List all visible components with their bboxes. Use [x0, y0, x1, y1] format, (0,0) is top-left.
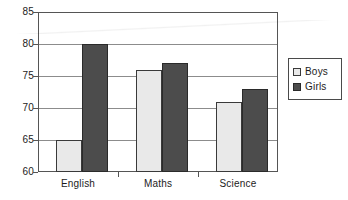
- x-axis-tick-2: [198, 172, 199, 177]
- bar-maths-girls: [162, 63, 188, 172]
- y-axis-label-80: 80: [4, 39, 34, 49]
- bar-english-boys: [56, 140, 82, 172]
- legend-swatch-girls-icon: [293, 83, 301, 91]
- bar-maths-boys: [136, 70, 162, 172]
- chart-legend: Boys Girls: [288, 58, 342, 100]
- y-axis-label-60: 60: [4, 167, 34, 177]
- y-axis-label-85: 85: [4, 7, 34, 17]
- bar-chart: 85 80 75 70 65 60 English Maths Science: [0, 0, 348, 200]
- y-axis-label-70: 70: [4, 103, 34, 113]
- bars-layer: [38, 12, 278, 172]
- y-axis-label-65: 65: [4, 135, 34, 145]
- bar-science-boys: [216, 102, 242, 172]
- x-axis-label-science: Science: [198, 178, 278, 190]
- bar-science-girls: [242, 89, 268, 172]
- y-axis-label-75: 75: [4, 71, 34, 81]
- legend-item-boys: Boys: [293, 64, 336, 79]
- x-axis-tick-1: [118, 172, 119, 177]
- legend-label-girls: Girls: [305, 81, 327, 92]
- legend-item-girls: Girls: [293, 79, 336, 94]
- bar-english-girls: [82, 44, 108, 172]
- x-axis-label-english: English: [38, 178, 118, 190]
- x-axis-label-maths: Maths: [118, 178, 198, 190]
- legend-swatch-boys-icon: [293, 68, 301, 76]
- y-axis-tick-60: [33, 172, 38, 173]
- legend-label-boys: Boys: [305, 66, 328, 77]
